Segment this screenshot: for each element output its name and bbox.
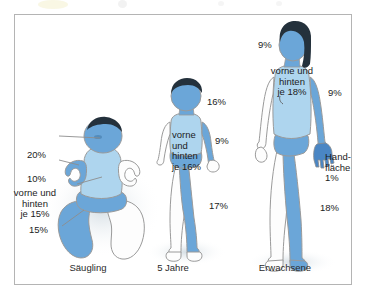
caption-infant: Säugling [43, 262, 133, 273]
infant-leg-label: 15% [14, 225, 48, 236]
infant-face-detail [94, 135, 102, 139]
infant-trunk-label: vorne und hinten je 15% [4, 188, 66, 220]
child-trunk-label: vorne und hinten je 16% [172, 130, 201, 172]
infant-arm-label: 10% [12, 174, 46, 185]
scan-artifact-4 [276, 1, 282, 6]
scan-artifact-2 [118, 0, 127, 8]
child-foot-white-2 [187, 252, 202, 261]
adult-hand-white [255, 147, 267, 162]
adult-trunk-label: vorne und hinten je 18% [258, 66, 326, 98]
adult-head-label: 9% [258, 40, 272, 51]
scan-artifact-1 [38, 0, 68, 9]
infant-trunk [81, 146, 122, 199]
adult-leg-label: 18% [320, 203, 339, 214]
child-foot-white [166, 252, 181, 261]
caption-adult: Erwachsene [240, 262, 330, 273]
child-arm-white [157, 122, 170, 165]
child-hand-white [207, 160, 219, 172]
child-leg-label: 17% [209, 201, 228, 212]
adult-leg-blue [283, 147, 305, 266]
burn-percentage-figure: 20% 10% vorne und hinten je 15% 15% 16% … [0, 0, 367, 297]
caption-child: 5 Jahre [128, 262, 218, 273]
infant-head-label: 20% [12, 150, 46, 161]
child-arm-label: 9% [215, 136, 229, 147]
scan-artifact-3 [218, 1, 224, 6]
adult-palm-label: Hand- fläche 1% [325, 152, 351, 184]
child-arm-blue [202, 122, 215, 165]
child-head-label: 16% [207, 97, 226, 108]
adult-arm-label: 9% [328, 88, 342, 99]
adult-figure [247, 21, 337, 275]
